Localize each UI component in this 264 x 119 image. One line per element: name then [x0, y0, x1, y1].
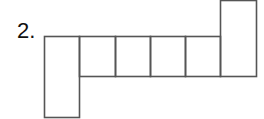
cell-square-1 — [80, 37, 116, 77]
cell-square-4 — [186, 37, 221, 77]
cell-square-3 — [151, 37, 186, 77]
cell-left-tall — [45, 37, 80, 118]
cell-right-tall — [221, 1, 257, 77]
net-diagram — [0, 0, 264, 119]
cell-square-2 — [116, 37, 151, 77]
